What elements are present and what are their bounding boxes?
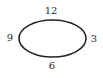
label-left: 9 [7, 33, 13, 43]
label-top: 12 [45, 6, 58, 16]
ellipse-shape [19, 20, 86, 57]
label-right: 3 [91, 34, 97, 44]
label-bottom: 6 [49, 61, 55, 71]
